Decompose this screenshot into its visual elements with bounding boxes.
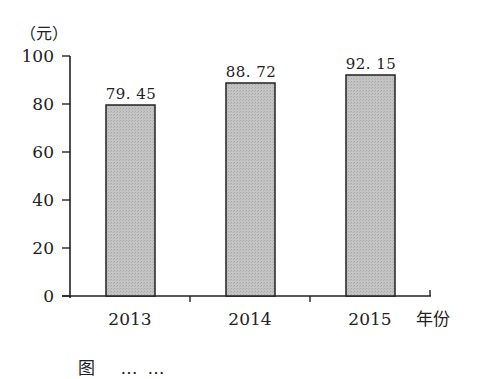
y-tick-label-100: 100 — [10, 47, 54, 65]
bar-2013 — [106, 105, 155, 296]
y-axis-unit-label: （元） — [20, 20, 68, 44]
x-tick-label-2015: 2015 — [330, 309, 410, 329]
bar-value-label-2014: 88. 72 — [206, 64, 296, 80]
y-tick-label-20: 20 — [10, 239, 54, 257]
bar-2014 — [226, 83, 275, 296]
y-tick-label-80: 80 — [10, 95, 54, 113]
y-tick-label-40: 40 — [10, 191, 54, 209]
y-axis-ticks — [62, 56, 70, 296]
bar-value-label-2015: 92. 15 — [326, 56, 416, 72]
figure-caption: 图 …… — [78, 354, 174, 379]
y-tick-label-60: 60 — [10, 143, 54, 161]
y-tick-label-0: 0 — [10, 287, 54, 305]
x-axis-unit-label: 年份 — [416, 309, 450, 329]
bar-value-label-2013: 79. 45 — [86, 86, 176, 102]
bar-2015 — [346, 75, 395, 296]
x-tick-label-2013: 2013 — [90, 309, 170, 329]
x-tick-label-2014: 2014 — [210, 309, 290, 329]
